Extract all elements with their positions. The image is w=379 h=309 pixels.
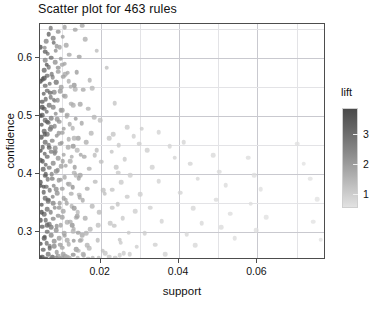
scatter-point — [39, 210, 44, 215]
scatter-point — [178, 190, 183, 195]
scatter-point — [142, 231, 147, 236]
scatter-point — [74, 247, 79, 252]
scatter-point — [72, 83, 77, 88]
scatter-point — [44, 97, 49, 102]
scatter-point — [75, 214, 80, 219]
scatter-point — [61, 75, 66, 80]
scatter-point — [96, 223, 101, 228]
scatter-point — [87, 78, 92, 83]
scatter-point — [61, 209, 66, 214]
scatter-point — [252, 173, 257, 178]
scatter-point — [54, 80, 59, 85]
scatter-point — [84, 140, 89, 145]
scatter-point — [76, 136, 81, 141]
scatter-point — [104, 65, 109, 70]
scatter-point — [39, 241, 43, 246]
scatter-point — [64, 43, 69, 48]
scatter-point — [45, 154, 50, 159]
y-axis-title: confidence — [4, 113, 16, 169]
scatter-point — [109, 150, 114, 155]
scatter-point — [68, 219, 73, 224]
scatter-point — [83, 216, 88, 221]
y-axis-tick-label: 0.6 — [8, 51, 32, 63]
scatter-point — [39, 122, 44, 127]
scatter-point — [228, 211, 233, 216]
scatter-point — [54, 187, 59, 192]
scatter-point — [62, 25, 67, 30]
scatter-point — [95, 48, 100, 53]
x-axis-tick — [256, 259, 257, 263]
x-axis-title: support — [163, 285, 201, 297]
scatter-point — [48, 90, 53, 95]
scatter-point — [114, 165, 119, 170]
scatter-point — [48, 26, 53, 31]
scatter-point — [44, 62, 49, 67]
scatter-point — [81, 252, 86, 257]
scatter-point — [76, 230, 81, 235]
scatter-point — [67, 122, 72, 127]
scatter-point — [73, 173, 78, 178]
scatter-point — [60, 108, 65, 113]
scatter-point — [160, 219, 165, 224]
scatter-point — [73, 87, 78, 92]
scatter-point — [128, 173, 133, 178]
legend-title: lift — [341, 86, 352, 98]
scatter-point — [188, 161, 193, 166]
scatter-point — [85, 186, 90, 191]
scatter-point — [81, 87, 86, 92]
scatter-point — [110, 187, 115, 192]
scatter-point — [125, 125, 130, 130]
scatter-point — [89, 131, 94, 136]
scatter-point — [93, 179, 98, 184]
scatter-point — [115, 202, 120, 207]
scatter-point — [95, 148, 100, 153]
scatter-point — [156, 179, 161, 184]
scatter-point — [68, 159, 73, 164]
scatter-point — [41, 91, 46, 96]
scatter-point — [52, 244, 57, 249]
scatter-point — [78, 102, 83, 107]
scatter-point — [40, 105, 45, 110]
scatter-point — [55, 224, 60, 229]
scatter-point — [99, 159, 104, 164]
scatter-point — [116, 171, 121, 176]
scatter-point — [65, 112, 70, 117]
legend-tick — [353, 194, 358, 195]
scatter-point — [46, 197, 51, 202]
scatter-point — [84, 231, 89, 236]
scatter-point — [60, 34, 65, 39]
scatter-point — [111, 132, 116, 137]
scatter-point — [55, 168, 60, 173]
scatter-point — [80, 23, 85, 28]
scatter-point — [184, 232, 189, 237]
scatter-point — [52, 90, 57, 95]
scatter-point — [56, 29, 61, 34]
scatter-point — [95, 238, 100, 243]
scatter-point — [86, 257, 91, 259]
x-axis-tick — [100, 259, 101, 263]
scatter-point — [42, 132, 47, 137]
scatter-point — [125, 194, 130, 199]
scatter-point — [90, 204, 95, 209]
scatter-point — [67, 53, 72, 58]
scatter-point — [138, 192, 143, 197]
scatter-point — [66, 71, 71, 76]
scatter-point — [73, 28, 78, 33]
scatter-point — [40, 100, 45, 105]
scatter-point — [78, 152, 83, 157]
scatter-point — [78, 239, 83, 244]
scatter-point — [112, 223, 117, 228]
scatter-point — [248, 201, 253, 206]
scatter-point — [50, 194, 55, 199]
scatter-point — [148, 205, 153, 210]
scatter-point — [92, 115, 97, 120]
scatter-point — [87, 166, 92, 171]
scatter-point — [295, 141, 300, 146]
scatter-point — [49, 116, 54, 121]
scatter-point — [258, 187, 263, 192]
scatter-point — [65, 255, 70, 259]
scatter-point — [145, 148, 150, 153]
scatter-point — [200, 221, 205, 226]
scatter-point — [58, 177, 63, 182]
scatter-point — [49, 257, 54, 259]
